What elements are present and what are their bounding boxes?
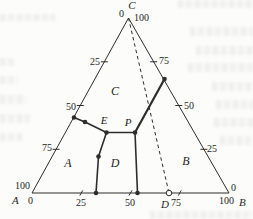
- point-on-right-edge: [162, 77, 167, 82]
- point-d-label: D: [160, 198, 169, 210]
- right-scale-50: 50: [184, 100, 194, 111]
- bottom-scale-50: 50: [125, 197, 135, 208]
- point-on-left-edge: [72, 115, 77, 120]
- boundary-E-to-bottom: [96, 133, 107, 194]
- boundary-P-to-rightedge: [135, 79, 165, 133]
- right-scale-100: 100: [134, 12, 149, 23]
- right-scale-75: 75: [159, 55, 169, 66]
- region-b-label: B: [182, 154, 190, 168]
- right-scale-0: 0: [231, 182, 236, 193]
- point-P: [133, 130, 138, 135]
- bottom-scale-0: 0: [28, 195, 33, 206]
- boundary-P-to-bottom: [135, 133, 138, 194]
- point-bottom-right: [135, 191, 140, 196]
- point-mid-E-bottom: [96, 154, 101, 159]
- point-mid-left-boundary: [83, 120, 88, 125]
- region-a-label: A: [63, 156, 72, 170]
- left-scale-0: 0: [119, 8, 124, 19]
- region-d-label: D: [110, 156, 120, 170]
- left-scale-25: 25: [90, 56, 100, 67]
- vertex-a-label: A: [11, 194, 19, 206]
- left-scale-75: 75: [42, 142, 52, 153]
- bottom-scale-75: 75: [171, 197, 181, 208]
- right-scale-25: 25: [207, 143, 217, 154]
- triangle-outline: [32, 18, 229, 193]
- point-bottom-left: [94, 191, 99, 196]
- bottom-scale-25: 25: [76, 197, 86, 208]
- point-e-label: E: [100, 114, 108, 126]
- ternary-phase-diagram: C0100255075755025100A02550D750100BCADBEP: [0, 0, 253, 219]
- point-D-open: [166, 190, 172, 196]
- left-scale-100: 100: [15, 180, 30, 191]
- vertex-c-label: C: [128, 0, 136, 11]
- region-c-label: C: [111, 84, 120, 98]
- point-E: [104, 130, 109, 135]
- vertex-b-label: B: [239, 196, 246, 208]
- scanned-book-figure: C0100255075755025100A02550D750100BCADBEP: [0, 0, 253, 219]
- point-p-label: P: [124, 116, 132, 128]
- bottom-scale-100: 100: [219, 195, 234, 206]
- left-scale-50: 50: [66, 101, 76, 112]
